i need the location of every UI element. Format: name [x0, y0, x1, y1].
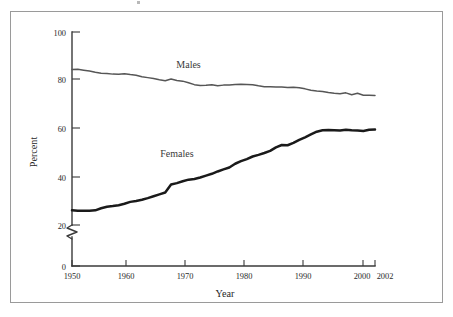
series-line-females [72, 130, 375, 211]
x-tick-label-2002: 2002 [377, 272, 394, 281]
figure-frame: 100 80 60 40 20 0 1950 1960 1970 1980 19… [10, 11, 443, 303]
males-series-label: Males [176, 59, 201, 70]
y-tick-label-100: 100 [53, 29, 66, 38]
x-tick-label-1960: 1960 [118, 272, 135, 281]
figure-root: 100 80 60 40 20 0 1950 1960 1970 1980 19… [0, 0, 453, 317]
x-tick-label-1950: 1950 [64, 272, 81, 281]
series-line-males [72, 69, 375, 95]
y-tick-label-60: 60 [58, 125, 66, 134]
females-series-label: Females [160, 148, 193, 159]
y-tick-label-40: 40 [58, 174, 66, 183]
x-tick-label-2000: 2000 [354, 272, 371, 281]
x-tick-label-1990: 1990 [295, 272, 312, 281]
y-tick-label-80: 80 [58, 76, 66, 85]
line-chart: 100 80 60 40 20 0 1950 1960 1970 1980 19… [11, 12, 442, 302]
y-tick-label-0: 0 [62, 263, 66, 272]
y-axis-title: Percent [28, 137, 39, 168]
scan-artifact [137, 1, 140, 4]
x-tick-marks [72, 260, 375, 266]
x-tick-label-1980: 1980 [236, 272, 253, 281]
y-tick-label-20: 20 [58, 222, 66, 231]
x-tick-label-1970: 1970 [177, 272, 194, 281]
x-axis-title: Year [216, 288, 235, 299]
